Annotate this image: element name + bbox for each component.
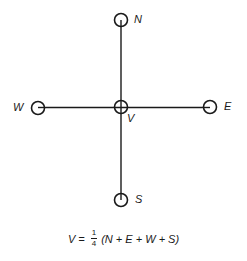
label-w: W (13, 102, 23, 113)
label-n: N (134, 14, 142, 25)
averaging-formula: V = 1 4 (N + E + W + S) (0, 229, 247, 248)
formula-fraction: 1 4 (91, 229, 97, 248)
label-s: S (135, 194, 142, 205)
formula-rhs: (N + E + W + S) (101, 233, 179, 245)
label-v: V (127, 113, 134, 124)
stencil-diagram (0, 0, 247, 261)
label-e: E (224, 101, 231, 112)
fraction-numerator: 1 (91, 229, 97, 239)
fraction-denominator: 4 (92, 239, 96, 248)
formula-lhs: V = (68, 233, 85, 245)
